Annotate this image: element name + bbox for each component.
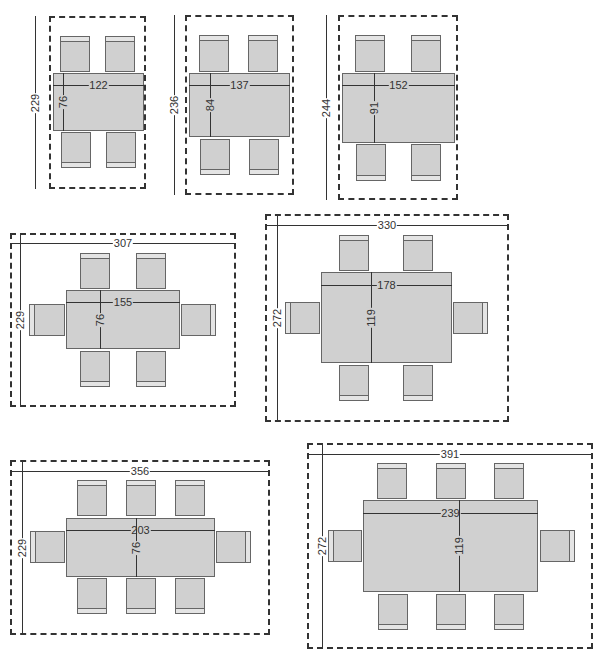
chair-icon	[339, 235, 369, 271]
table-depth-label: 76	[58, 95, 69, 109]
chair-icon	[339, 365, 369, 401]
chair-icon	[377, 463, 407, 499]
chair-back	[210, 304, 216, 336]
room-depth-label: 229	[15, 310, 26, 330]
table-width-label: 137	[229, 80, 249, 91]
chair-icon	[80, 253, 110, 289]
chair-icon	[199, 35, 229, 72]
chair-icon	[30, 531, 65, 563]
chair-icon	[60, 36, 90, 72]
chair-back	[30, 531, 36, 563]
chair-back	[403, 235, 433, 241]
chair-back	[339, 235, 369, 241]
table-width-label: 203	[130, 525, 150, 536]
chair-back	[482, 302, 488, 334]
chair-back	[175, 608, 205, 614]
chair-icon	[175, 480, 205, 516]
chair-back	[436, 624, 466, 630]
chair-icon	[106, 132, 136, 168]
table-width-label: 152	[388, 80, 408, 91]
chair-back	[60, 36, 90, 42]
chair-back	[77, 608, 107, 614]
chair-icon	[61, 132, 91, 168]
chair-icon	[411, 35, 441, 72]
room-depth-label: 272	[317, 536, 328, 556]
chair-icon	[77, 578, 107, 614]
room-depth-label: 272	[272, 308, 283, 328]
chair-icon	[328, 530, 362, 562]
chair-icon	[216, 531, 251, 563]
chair-back	[339, 395, 369, 401]
chair-back	[328, 530, 334, 562]
chair-back	[494, 463, 524, 469]
chair-back	[200, 169, 230, 175]
chair-icon	[411, 144, 441, 181]
chair-icon	[77, 480, 107, 516]
chair-icon	[403, 235, 433, 271]
chair-back	[175, 480, 205, 486]
chair-back	[411, 35, 441, 41]
room-width-label: 391	[440, 449, 460, 460]
chair-icon	[540, 530, 575, 562]
chair-icon	[285, 302, 320, 334]
chair-icon	[436, 594, 466, 630]
chair-icon	[29, 304, 65, 336]
chair-back	[403, 395, 433, 401]
chair-icon	[378, 594, 408, 630]
chair-back	[356, 175, 386, 181]
table-width-label: 122	[88, 80, 108, 91]
chair-icon	[453, 302, 488, 334]
table-width-label: 178	[376, 280, 396, 291]
chair-icon	[126, 480, 156, 516]
chair-back	[77, 480, 107, 486]
chair-icon	[356, 144, 386, 181]
chair-back	[105, 36, 135, 42]
chair-icon	[494, 463, 524, 499]
chair-back	[378, 624, 408, 630]
chair-back	[377, 463, 407, 469]
table-width-label: 239	[440, 508, 460, 519]
table-depth-label: 76	[131, 540, 142, 554]
chair-icon	[105, 36, 135, 72]
chair-back	[436, 463, 466, 469]
chair-icon	[175, 578, 205, 614]
table-depth-label: 119	[454, 536, 465, 556]
chair-icon	[248, 35, 278, 72]
room-depth-label: 229	[30, 92, 41, 112]
chair-icon	[80, 351, 110, 387]
chair-back	[80, 253, 110, 259]
chair-back	[355, 35, 385, 41]
chair-back	[411, 175, 441, 181]
chair-back	[61, 162, 91, 168]
chair-back	[126, 608, 156, 614]
room-depth-label: 236	[169, 95, 180, 115]
room-depth-label: 244	[321, 97, 332, 117]
table-depth-label: 84	[205, 98, 216, 112]
room-width-label: 330	[377, 220, 397, 231]
table-depth-label: 76	[95, 312, 106, 326]
chair-back	[106, 162, 136, 168]
chair-back	[245, 531, 251, 563]
table-width-label: 155	[113, 297, 133, 308]
chair-icon	[136, 253, 166, 289]
chair-icon	[494, 594, 524, 630]
room-width-label: 356	[130, 466, 150, 477]
chair-icon	[181, 304, 216, 336]
chair-icon	[249, 139, 279, 175]
room-width-label: 307	[113, 238, 133, 249]
chair-icon	[436, 463, 466, 499]
chair-back	[136, 253, 166, 259]
chair-icon	[200, 139, 230, 175]
chair-back	[29, 304, 35, 336]
chair-icon	[136, 351, 166, 387]
chair-back	[126, 480, 156, 486]
chair-icon	[355, 35, 385, 72]
chair-back	[285, 302, 291, 334]
chair-back	[136, 381, 166, 387]
chair-back	[248, 35, 278, 41]
chair-back	[494, 624, 524, 630]
chair-back	[249, 169, 279, 175]
chair-icon	[403, 365, 433, 401]
chair-back	[199, 35, 229, 41]
chair-icon	[126, 578, 156, 614]
